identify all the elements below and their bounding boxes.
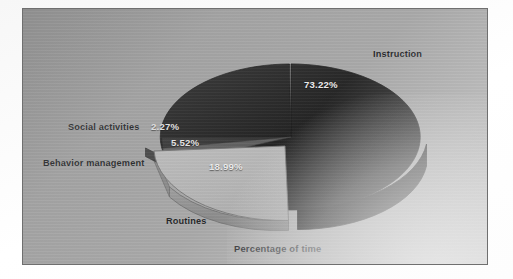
pie-chart-figure: Instruction Social activities Behavior m… — [0, 0, 513, 279]
pie-chart-graphic — [23, 9, 488, 265]
label-instruction: Instruction — [373, 49, 422, 59]
label-social-activities: Social activities — [68, 122, 140, 132]
value-routines: 18.99% — [209, 161, 243, 172]
chart-caption: Percentage of time — [234, 243, 321, 254]
slice-top-routines — [154, 146, 289, 221]
value-instruction: 73.22% — [304, 79, 338, 90]
label-behavior-management: Behavior management — [43, 158, 144, 168]
label-routines: Routines — [166, 216, 207, 226]
value-social-activities: 2.27% — [151, 121, 179, 132]
chart-frame: Instruction Social activities Behavior m… — [22, 8, 488, 265]
value-behavior-management: 5.52% — [171, 137, 199, 148]
